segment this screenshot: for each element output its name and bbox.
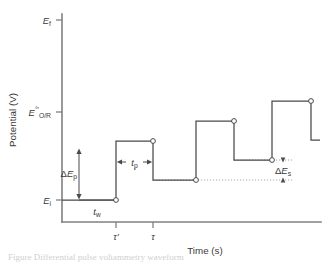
sample-marker bbox=[309, 99, 314, 104]
delta-es-arrowhead-up bbox=[281, 178, 286, 183]
x-tick-label-tau-prime: τ′ bbox=[113, 231, 120, 242]
y-axis-title: Potential (V) bbox=[7, 93, 18, 147]
sample-marker bbox=[270, 158, 275, 163]
potential-waveform bbox=[62, 101, 320, 200]
sample-marker bbox=[114, 198, 119, 203]
figure-caption-strip: Figure Differential pulse voltammetry wa… bbox=[0, 254, 329, 263]
tp-arrowhead-left bbox=[117, 160, 122, 165]
sample-marker bbox=[194, 178, 199, 183]
delta-ep-label: ΔEp bbox=[61, 168, 78, 181]
delta-ep-arrowhead-up bbox=[76, 149, 81, 155]
y-tick-label-eor: E°′O/R bbox=[29, 106, 52, 119]
sample-marker bbox=[151, 139, 156, 144]
figure-root: Ef E°′O/R Ei τ′ τ Time (s) Potential (V)… bbox=[0, 0, 329, 263]
delta-es-guides bbox=[153, 160, 293, 180]
tw-label: tw bbox=[93, 206, 101, 218]
y-tick-labels: Ef E°′O/R Ei bbox=[29, 15, 52, 207]
tp-arrowhead-right bbox=[147, 160, 152, 165]
waveform-chart: Ef E°′O/R Ei τ′ τ Time (s) Potential (V)… bbox=[0, 0, 329, 263]
y-tick-label-ef: Ef bbox=[43, 15, 51, 27]
sampling-markers bbox=[114, 99, 314, 203]
figure-caption: Figure Differential pulse voltammetry wa… bbox=[8, 254, 184, 262]
x-tick-labels: τ′ τ bbox=[113, 231, 156, 242]
sample-marker bbox=[232, 119, 237, 124]
delta-es-arrowhead-down bbox=[281, 158, 286, 163]
delta-es-label: ΔEs bbox=[275, 165, 292, 177]
annotation-tw: tw bbox=[79, 200, 114, 218]
x-tick-label-tau: τ bbox=[151, 231, 156, 242]
delta-ep-arrowhead-down bbox=[76, 194, 81, 200]
axis-group bbox=[56, 14, 321, 228]
y-tick-label-ei: Ei bbox=[43, 195, 51, 207]
annotation-delta-es: ΔEs bbox=[275, 158, 292, 183]
annotation-delta-ep: ΔEp bbox=[61, 149, 82, 200]
